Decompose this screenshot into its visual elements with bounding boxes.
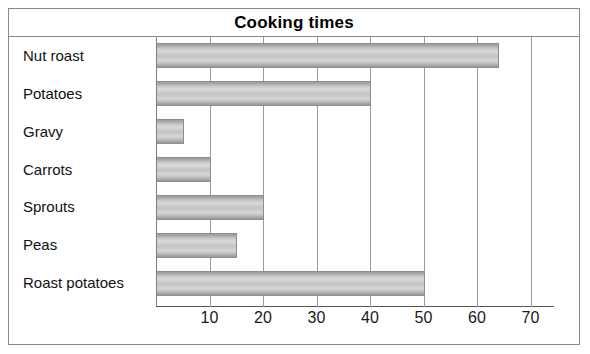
bar-row <box>157 264 425 302</box>
category-label: Nut roast <box>23 37 84 75</box>
bar-row <box>157 113 184 151</box>
bar-roast-potatoes[interactable] <box>157 271 425 296</box>
bar-row <box>157 75 371 113</box>
tick-label: 60 <box>468 309 486 327</box>
plot-wrapper: Nut roast Potatoes Gravy Carrots Sprouts… <box>9 37 581 345</box>
bar-carrots[interactable] <box>157 157 211 182</box>
value-axis-tick-labels: 10 20 30 40 50 60 70 <box>156 309 581 339</box>
bar-potatoes[interactable] <box>157 81 371 106</box>
gridline-70 <box>531 37 532 307</box>
tick-label: 10 <box>201 309 219 327</box>
tick-label: 50 <box>415 309 433 327</box>
bar-gravy[interactable] <box>157 119 184 144</box>
category-axis-labels: Nut roast Potatoes Gravy Carrots Sprouts… <box>9 37 156 307</box>
tick-label: 20 <box>254 309 272 327</box>
gridline-60 <box>477 37 478 307</box>
bar-row <box>157 151 211 189</box>
category-label: Carrots <box>23 151 72 189</box>
category-label: Sprouts <box>23 188 75 226</box>
bar-nut-roast[interactable] <box>157 43 499 68</box>
category-label: Peas <box>23 226 57 264</box>
bar-row <box>157 188 264 226</box>
bar-sprouts[interactable] <box>157 195 264 220</box>
category-label: Gravy <box>23 113 63 151</box>
page-title: Cooking times <box>234 13 354 33</box>
chart-title-bar: Cooking times <box>9 9 579 37</box>
tick-label: 40 <box>361 309 379 327</box>
tick-label: 70 <box>522 309 540 327</box>
category-label: Roast potatoes <box>23 264 124 302</box>
chart-frame: Cooking times Nut roast Potatoes Gravy C… <box>8 8 580 345</box>
plot-area <box>156 37 581 307</box>
bar-row <box>157 37 499 75</box>
category-axis-line <box>156 306 554 307</box>
tick-label: 30 <box>308 309 326 327</box>
category-label: Potatoes <box>23 75 82 113</box>
bar-row <box>157 226 237 264</box>
bar-peas[interactable] <box>157 233 237 258</box>
